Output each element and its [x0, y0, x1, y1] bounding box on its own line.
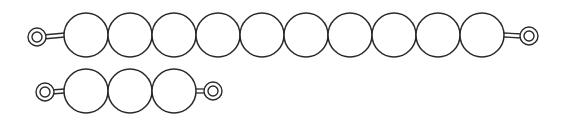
- bead-strings-diagram: [0, 0, 569, 120]
- bead: [328, 13, 372, 57]
- bead: [372, 13, 416, 57]
- bead: [108, 69, 152, 113]
- three-bead-string: [36, 69, 222, 113]
- bead: [64, 69, 108, 113]
- left-eye-loop-icon: [36, 83, 54, 101]
- right-eye-loop-icon: [520, 27, 538, 45]
- left-eye-loop-icon: [28, 28, 46, 46]
- bead: [152, 69, 196, 113]
- bead: [196, 13, 240, 57]
- bead: [240, 13, 284, 57]
- bead: [152, 13, 196, 57]
- bead: [284, 13, 328, 57]
- bead: [64, 13, 108, 57]
- bead: [416, 13, 460, 57]
- bead: [108, 13, 152, 57]
- bead: [460, 13, 504, 57]
- right-eye-loop-icon: [204, 82, 222, 100]
- ten-bead-string: [28, 13, 538, 57]
